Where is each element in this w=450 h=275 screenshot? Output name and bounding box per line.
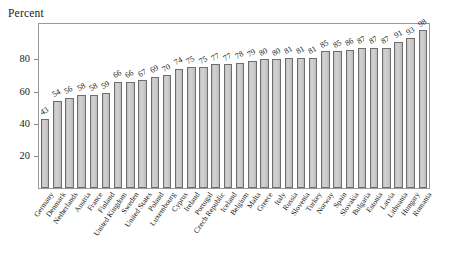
bar-value-label: 98 xyxy=(417,18,428,29)
bar-value-label: 93 xyxy=(405,26,416,37)
bar xyxy=(65,98,74,188)
bar xyxy=(248,61,257,188)
bar-slot: 66 xyxy=(114,24,123,188)
bar xyxy=(151,77,160,188)
bar-slot: 77 xyxy=(224,24,233,188)
bar xyxy=(309,58,318,188)
bar-slot: 75 xyxy=(199,24,208,188)
bar xyxy=(77,95,86,188)
bar-slot: 86 xyxy=(346,24,355,188)
bar xyxy=(285,58,294,188)
bar xyxy=(175,69,184,188)
bar-slot: 91 xyxy=(394,24,403,188)
bar-slot: 56 xyxy=(65,24,74,188)
bar xyxy=(370,48,379,188)
bar-slot: 85 xyxy=(321,24,330,188)
bar-value-label: 58 xyxy=(88,82,99,93)
bar xyxy=(333,51,342,188)
bar xyxy=(41,119,50,188)
bar-slot: 98 xyxy=(419,24,428,188)
bar-slot: 80 xyxy=(272,24,281,188)
bar-value-label: 78 xyxy=(234,50,245,61)
bar-value-label: 75 xyxy=(197,55,208,66)
y-tick-mark xyxy=(34,156,38,157)
bar xyxy=(346,50,355,188)
bar-value-label: 81 xyxy=(307,45,318,56)
bar-slot: 81 xyxy=(285,24,294,188)
bar-slot: 87 xyxy=(370,24,379,188)
bar-value-label: 77 xyxy=(210,52,221,63)
bar-value-label: 86 xyxy=(344,37,355,48)
bar-value-label: 81 xyxy=(295,45,306,56)
bar-slot: 58 xyxy=(90,24,99,188)
bar-slot: 85 xyxy=(333,24,342,188)
bar-value-label: 54 xyxy=(51,88,62,99)
bar-slot: 87 xyxy=(358,24,367,188)
bar xyxy=(53,101,62,188)
bar xyxy=(126,82,135,188)
bar-slot: 69 xyxy=(151,24,160,188)
bar-value-label: 67 xyxy=(136,68,147,79)
y-tick-label: 20 xyxy=(4,151,30,162)
bar xyxy=(138,80,147,188)
bar xyxy=(114,82,123,188)
bar-value-label: 56 xyxy=(63,85,74,96)
bar-slot: 54 xyxy=(53,24,62,188)
bars-layer: 4354565858596666676970747575777778798080… xyxy=(39,24,429,188)
bar-slot: 93 xyxy=(406,24,415,188)
bar-slot: 70 xyxy=(163,24,172,188)
bar-value-label: 87 xyxy=(368,35,379,46)
x-axis-labels: GermanyDenmarkNetherlandsAustriaFranceFi… xyxy=(39,191,429,275)
bar xyxy=(199,67,208,188)
bar-value-label: 75 xyxy=(185,55,196,66)
bar-slot: 74 xyxy=(175,24,184,188)
bar-value-label: 58 xyxy=(76,82,87,93)
bar-value-label: 79 xyxy=(246,48,257,59)
bar-slot: 67 xyxy=(138,24,147,188)
bar-value-label: 69 xyxy=(149,64,160,75)
bar xyxy=(272,59,281,188)
bar-value-label: 70 xyxy=(161,63,172,74)
bar xyxy=(236,63,245,188)
y-tick-label: 60 xyxy=(4,87,30,98)
bar-value-label: 87 xyxy=(356,35,367,46)
bar xyxy=(90,95,99,188)
bar-value-label: 59 xyxy=(100,80,111,91)
bar-chart: Percent 20406080 43545658585966666769707… xyxy=(0,0,450,275)
bar-slot: 59 xyxy=(102,24,111,188)
bar-slot: 81 xyxy=(297,24,306,188)
bar xyxy=(102,93,111,188)
y-axis-title: Percent xyxy=(8,7,44,19)
bar-slot: 43 xyxy=(41,24,50,188)
bar xyxy=(358,48,367,188)
bar-slot: 79 xyxy=(248,24,257,188)
bar xyxy=(406,38,415,188)
y-tick-mark xyxy=(34,59,38,60)
bar xyxy=(187,67,196,188)
bar-value-label: 74 xyxy=(173,56,184,67)
bar-slot: 87 xyxy=(382,24,391,188)
bar-value-label: 66 xyxy=(124,69,135,80)
bar-value-label: 87 xyxy=(380,35,391,46)
bar-slot: 81 xyxy=(309,24,318,188)
bar-value-label: 80 xyxy=(271,47,282,58)
y-tick-mark xyxy=(34,92,38,93)
bar-value-label: 80 xyxy=(258,47,269,58)
bar-value-label: 43 xyxy=(39,106,50,117)
bar-value-label: 77 xyxy=(222,52,233,63)
bar-value-label: 81 xyxy=(283,45,294,56)
bar-value-label: 85 xyxy=(331,39,342,50)
y-tick-label: 80 xyxy=(4,54,30,65)
bar xyxy=(382,48,391,188)
bar xyxy=(419,30,428,188)
bar-slot: 78 xyxy=(236,24,245,188)
bar xyxy=(297,58,306,188)
bar-slot: 58 xyxy=(77,24,86,188)
bar xyxy=(260,59,269,188)
bar-slot: 80 xyxy=(260,24,269,188)
bar-slot: 75 xyxy=(187,24,196,188)
bar-value-label: 66 xyxy=(112,69,123,80)
bar xyxy=(163,75,172,188)
y-tick-label: 40 xyxy=(4,119,30,130)
bar-value-label: 91 xyxy=(392,29,403,40)
